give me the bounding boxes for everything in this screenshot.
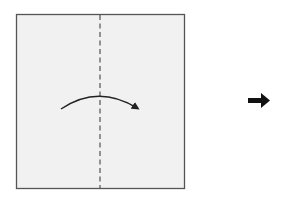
- diagram-canvas: [0, 0, 285, 200]
- folding-diagram: Fold the square in half along the vertic…: [0, 0, 285, 200]
- right-arrow-icon: [248, 93, 270, 108]
